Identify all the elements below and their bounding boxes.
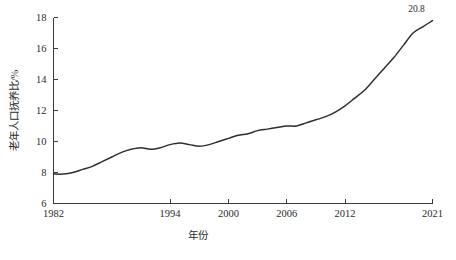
y-tick-label: 16 xyxy=(36,43,47,54)
x-tick-label: 1994 xyxy=(160,208,182,219)
y-tick-label: 14 xyxy=(36,74,47,85)
x-tick-label: 2000 xyxy=(218,208,239,219)
chart-container: 198219942000200620122021 681012141618 20… xyxy=(0,0,456,260)
chart-annotations: 20.8 xyxy=(408,4,425,14)
x-axis-ticks xyxy=(54,199,433,204)
x-axis-tick-labels: 198219942000200620122021 xyxy=(43,208,443,219)
y-tick-label: 10 xyxy=(36,136,47,147)
line-chart: 198219942000200620122021 681012141618 20… xyxy=(0,0,456,260)
data-series-line xyxy=(54,21,433,175)
y-tick-label: 12 xyxy=(36,105,47,116)
y-tick-label: 8 xyxy=(41,167,46,178)
x-axis-title: 年份 xyxy=(188,229,209,241)
y-tick-label: 18 xyxy=(36,12,47,23)
y-axis-ticks xyxy=(54,18,59,204)
x-tick-label: 2006 xyxy=(276,208,297,219)
y-axis-tick-labels: 681012141618 xyxy=(36,12,47,209)
x-tick-label: 2012 xyxy=(335,208,356,219)
x-tick-label: 2021 xyxy=(422,208,443,219)
end-value-label: 20.8 xyxy=(408,4,425,14)
chart-axes xyxy=(54,18,433,204)
x-tick-label: 1982 xyxy=(43,208,64,219)
y-tick-label: 6 xyxy=(41,198,46,209)
y-axis-title: 老年人口抚养比/% xyxy=(8,69,20,151)
